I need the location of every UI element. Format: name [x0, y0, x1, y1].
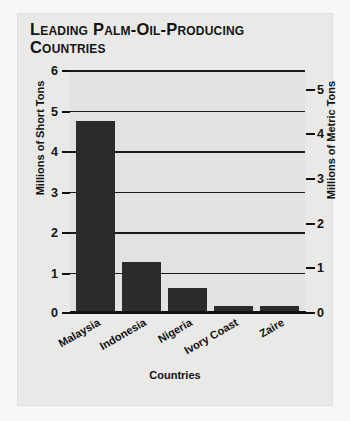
chart-card: Leading Palm-Oil-Producing Countries: [18, 14, 332, 405]
chart-screenshot: Leading Palm-Oil-Producing Countries: [0, 0, 350, 421]
y-tick-label-right: 2: [317, 217, 331, 231]
plot-area: [70, 70, 305, 313]
y-axis-tick-right: [306, 267, 315, 269]
bar-indonesia: [122, 262, 161, 313]
y-tick-label-left: 2: [32, 226, 58, 240]
y-axis-title-right: Millions of Metric Tons: [325, 75, 337, 205]
bar-nigeria: [168, 288, 207, 313]
y-axis-tick-left: [62, 312, 70, 314]
y-tick-label-left: 1: [32, 267, 58, 281]
y-axis-tick-right: [306, 223, 315, 225]
y-axis-tick-left: [62, 111, 70, 113]
y-tick-label-right: 0: [317, 306, 331, 320]
y-tick-label-right: 1: [317, 261, 331, 275]
x-axis-line: [70, 311, 306, 314]
y-axis-tick-right: [306, 178, 315, 180]
y-axis-title-left: Millions of Short Tons: [34, 73, 46, 203]
y-tick-label-left: 0: [32, 306, 58, 320]
y-axis-tick-left: [62, 70, 70, 72]
y-axis-tick-right: [306, 133, 315, 135]
chart-title: Leading Palm-Oil-Producing Countries: [30, 20, 310, 57]
y-axis-tick-left: [62, 151, 70, 153]
y-axis-tick-right: [306, 89, 315, 91]
bar-series: [70, 70, 305, 313]
bar-malaysia: [76, 121, 115, 313]
y-axis-tick-left: [62, 232, 70, 234]
y-axis-tick-left: [62, 273, 70, 275]
y-axis-tick-right: [306, 312, 315, 314]
y-axis-tick-left: [62, 192, 70, 194]
